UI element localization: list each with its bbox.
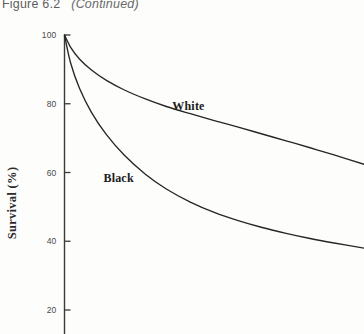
survival-curve-white bbox=[65, 35, 364, 164]
y-tick-label: 80 bbox=[29, 99, 57, 109]
curve-label-black: Black bbox=[103, 171, 133, 186]
y-tick-label: 40 bbox=[29, 236, 57, 246]
y-axis bbox=[65, 35, 71, 334]
figure-page: Figure 6.2(Continued) Survival (%) 10080… bbox=[0, 0, 364, 334]
y-tick-label: 100 bbox=[29, 30, 57, 40]
y-tick-label: 60 bbox=[29, 168, 57, 178]
y-axis-ticks bbox=[65, 35, 71, 310]
y-tick-label: 20 bbox=[29, 305, 57, 315]
survival-curves bbox=[65, 35, 364, 248]
curve-label-white: White bbox=[172, 99, 204, 114]
survival-curve-black bbox=[65, 35, 364, 248]
